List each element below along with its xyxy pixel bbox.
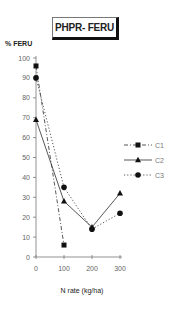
plot-area: 01020304050607080901000100200300C1C2C3 [0,0,179,309]
legend-circle-icon [135,172,141,178]
series-line-c3 [36,78,120,229]
circle-marker [33,75,39,81]
x-tick-label: 200 [86,265,98,272]
legend-label-c2: C2 [155,157,164,164]
legend-label-c3: C3 [155,172,164,179]
y-tick-label: 100 [18,55,30,62]
y-tick-label: 20 [22,214,30,221]
legend-triangle-icon [135,157,141,162]
y-tick-label: 40 [22,174,30,181]
series-line-c1 [36,66,64,245]
x-tick-label: 0 [34,265,38,272]
legend-square-icon [136,143,141,148]
legend-label-c1: C1 [155,142,164,149]
series-line-c2 [36,120,120,227]
x-tick-label: 100 [58,265,70,272]
y-tick-label: 70 [22,114,30,121]
y-tick-label: 50 [22,154,30,161]
square-marker [62,243,67,248]
circle-marker [89,226,95,232]
triangle-marker [61,198,67,203]
y-tick-label: 80 [22,94,30,101]
square-marker [34,63,39,68]
y-tick-label: 10 [22,234,30,241]
y-tick-label: 0 [26,254,30,261]
triangle-marker [117,190,123,195]
y-tick-label: 30 [22,194,30,201]
y-tick-label: 90 [22,74,30,81]
circle-marker [61,185,67,191]
circle-marker [117,210,123,216]
x-tick-label: 300 [114,265,126,272]
y-tick-label: 60 [22,134,30,141]
